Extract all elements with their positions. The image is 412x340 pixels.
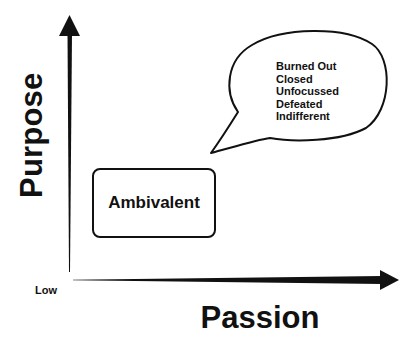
diagram-canvas: Purpose Passion Low Ambivalent Burned Ou… <box>0 0 412 340</box>
x-axis-label: Passion <box>185 300 335 336</box>
bubble-item: Defeated <box>276 98 339 111</box>
origin-label: Low <box>35 284 57 296</box>
bubble-item: Closed <box>276 73 339 86</box>
y-axis-arrow <box>59 15 80 272</box>
ambivalent-box: Ambivalent <box>92 168 216 238</box>
bubble-item: Unfocussed <box>276 85 339 98</box>
y-axis-label: Purpose <box>12 98 52 198</box>
bubble-item: Burned Out <box>276 60 339 73</box>
x-axis-arrow <box>73 270 399 290</box>
speech-bubble-list: Burned Out Closed Unfocussed Defeated In… <box>276 60 339 123</box>
ambivalent-label: Ambivalent <box>108 193 200 213</box>
bubble-item: Indifferent <box>276 110 339 123</box>
